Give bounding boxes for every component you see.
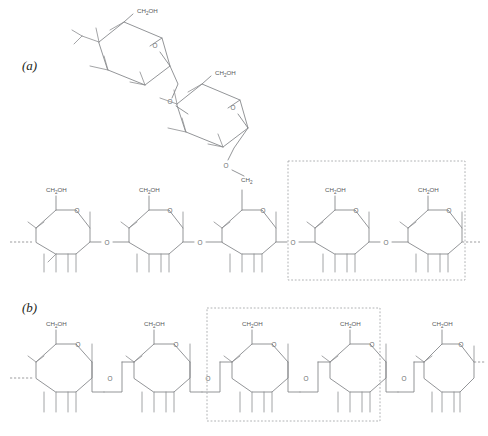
chain-a-linkage-1: O: [90, 239, 129, 246]
ring-a5-ring-oxygen: O: [447, 207, 452, 214]
ring-b1-ch2oh: CH2OH: [46, 320, 67, 329]
ring-a2-ch2oh: CH2OH: [139, 186, 160, 195]
ring-b3-ch2oh: CH2OH: [242, 320, 263, 329]
bridge-oxygen-b4: O: [402, 375, 407, 382]
chain-b-ring-4: CH2OH O: [322, 320, 386, 412]
ring-a1-ring-oxygen: O: [75, 207, 80, 214]
chain-a-linkage-4: O: [369, 239, 408, 246]
chain-b-ring-2: CH2OH O: [126, 320, 190, 412]
ring-b5-ch2oh: CH2OH: [432, 320, 453, 329]
branch-ring-1: O CH2OH: [72, 7, 170, 85]
ring-b2-ch2oh: CH2OH: [144, 320, 165, 329]
ring-a4-ring-oxygen: O: [354, 207, 359, 214]
ring-b5-ring-oxygen: O: [459, 341, 464, 348]
branch-attach-ch2: CH2: [241, 176, 253, 185]
chain-b-linkage-1: O: [92, 362, 134, 392]
ring-a2-ring-oxygen: O: [168, 207, 173, 214]
branch-bridge-oxygen-2: O: [224, 162, 229, 169]
bridge-oxygen-b2: O: [206, 375, 211, 382]
chain-a-ring-5: CH2OH O: [400, 186, 480, 272]
branch-ring-1-ch2oh: CH2OH: [137, 7, 158, 16]
ring-a4-ch2oh: CH2OH: [325, 186, 346, 195]
chain-a-ring-1: CH2OH O: [28, 186, 90, 272]
chain-a-linkage-2: O: [183, 239, 222, 246]
branch-ring-2: O CH2OH: [160, 69, 248, 147]
bridge-oxygen-b1: O: [108, 375, 113, 382]
panel-label-b: (b): [22, 300, 37, 315]
bridge-oxygen-a4: O: [384, 239, 389, 246]
ring-b4-ch2oh: CH2OH: [340, 320, 361, 329]
ring-b4-ring-oxygen: O: [370, 341, 375, 348]
ring-a3-ring-oxygen: O: [261, 207, 266, 214]
chain-a-linkage-3: O: [276, 239, 315, 246]
ring-b2-ring-oxygen: O: [174, 341, 179, 348]
chain-b-ring-1: CH2OH O: [28, 320, 92, 412]
chain-b-linkage-2: O: [190, 362, 232, 392]
main-chain-b: CH2OH O O CH2OH O: [10, 308, 486, 421]
chain-b-ring-5: CH2OH O: [416, 320, 486, 412]
bridge-oxygen-b3: O: [304, 375, 309, 382]
ring-a5-ch2oh: CH2OH: [418, 186, 439, 195]
chain-a-ring-4: CH2OH O: [307, 186, 369, 272]
bridge-oxygen-a3: O: [291, 239, 296, 246]
ring-b3-ring-oxygen: O: [272, 341, 277, 348]
polysaccharide-figure: (a) (b) O CH2OH O: [0, 0, 488, 436]
ring-b1-ring-oxygen: O: [76, 341, 81, 348]
highlight-box-a: [288, 161, 465, 280]
branch-ring-2-ch2oh: CH2OH: [215, 69, 236, 78]
chain-b-linkage-4: O: [386, 362, 424, 392]
panel-label-a: (a): [22, 58, 37, 73]
chain-b-ring-3: CH2OH O: [224, 320, 288, 412]
chain-b-linkage-3: O: [288, 362, 330, 392]
ring-a1-ch2oh: CH2OH: [46, 186, 67, 195]
branch-chain-group: O CH2OH O O: [72, 7, 253, 185]
bridge-oxygen-a1: O: [105, 239, 110, 246]
branch-linkage-2: O CH2: [224, 128, 253, 185]
chain-a-ring-2: CH2OH O: [121, 186, 183, 272]
bridge-oxygen-a2: O: [198, 239, 203, 246]
chain-a-ring-3-branchpoint: O: [214, 190, 276, 272]
